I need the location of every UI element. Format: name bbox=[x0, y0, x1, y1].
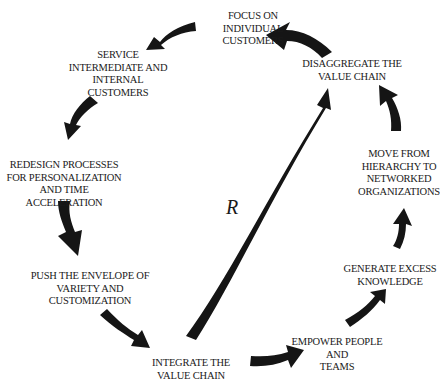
arrow-redesign-to-push bbox=[58, 201, 82, 256]
node-empower-people-teams: EMPOWER PEOPLE AND TEAMS bbox=[282, 336, 392, 374]
node-move-hierarchy-networked: MOVE FROM HIERARCHY TO NETWORKED ORGANIZ… bbox=[358, 148, 440, 198]
arrow-integrate-to-disaggregate bbox=[186, 88, 331, 340]
node-redesign-processes: REDESIGN PROCESSES FOR PERSONALIZATION A… bbox=[4, 159, 124, 209]
node-disaggregate-value-chain: DISAGGREGATE THE VALUE CHAIN bbox=[300, 58, 404, 83]
arrow-move-to-disaggregate bbox=[379, 85, 401, 131]
node-push-envelope: PUSH THE ENVELOPE OF VARIETY AND CUSTOMI… bbox=[30, 270, 150, 308]
reinforcing-loop-label: R bbox=[226, 196, 238, 219]
node-integrate-value-chain: INTEGRATE THE VALUE CHAIN bbox=[146, 357, 236, 382]
node-generate-excess-knowledge: GENERATE EXCESS KNOWLEDGE bbox=[343, 263, 437, 288]
arrow-push-to-integrate bbox=[100, 309, 150, 348]
arrow-empower-to-generate bbox=[345, 289, 386, 327]
arrow-focus-to-service bbox=[146, 22, 196, 50]
arrow-service-to-redesign bbox=[64, 96, 98, 140]
node-service-intermediate-internal-customers: SERVICE INTERMEDIATE AND INTERNAL CUSTOM… bbox=[68, 49, 168, 99]
arrow-generate-to-move bbox=[393, 208, 412, 249]
node-focus-on-individual-customers: FOCUS ON INDIVIDUAL CUSTOMERS bbox=[212, 10, 294, 48]
